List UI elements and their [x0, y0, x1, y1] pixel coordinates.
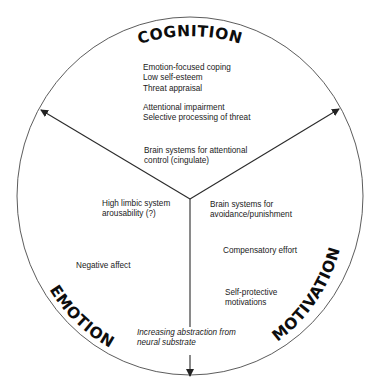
cognition-group-3: Brain systems for attentional control (c…	[144, 146, 247, 167]
axis-note-line: Increasing abstraction from	[137, 328, 236, 338]
motivation-item: Compensatory effort	[223, 246, 297, 256]
axis-note-line: neural substrate	[137, 338, 236, 348]
cognition-group-1: Emotion-focused coping Low self-esteem T…	[143, 63, 231, 94]
motivation-item: motivations	[225, 298, 277, 308]
emotion-group-1: High limbic system arousability (?)	[102, 199, 170, 220]
motivation-item: Self-protective	[225, 288, 277, 298]
emotion-item: High limbic system	[102, 199, 170, 209]
cognition-group-2: Attentional impairment Selective process…	[143, 103, 250, 124]
motivation-group-1: Brain systems for avoidance/punishment	[210, 200, 292, 221]
motivation-title: MOTIVATION	[269, 245, 344, 345]
emotion-group-2: Negative affect	[76, 261, 130, 271]
motivation-group-3: Self-protective motivations	[225, 288, 277, 309]
emotion-item: Negative affect	[76, 261, 130, 271]
motivation-item: avoidance/punishment	[210, 210, 292, 220]
cognition-item: Brain systems for attentional	[144, 146, 247, 156]
emotion-title: EMOTION	[46, 282, 118, 352]
motivation-item: Brain systems for	[210, 200, 292, 210]
cognition-title: COGNITION	[135, 22, 244, 48]
abstraction-axis-note: Increasing abstraction from neural subst…	[137, 328, 236, 349]
cognition-item: Emotion-focused coping	[143, 63, 231, 73]
cognition-item: control (cingulate)	[144, 156, 247, 166]
cognition-item: Attentional impairment	[143, 103, 250, 113]
cognition-item: Selective processing of threat	[143, 113, 250, 123]
cognition-item: Low self-esteem	[143, 73, 231, 83]
emotion-item: arousability (?)	[102, 209, 170, 219]
cognition-item: Threat appraisal	[143, 84, 231, 94]
motivation-group-2: Compensatory effort	[223, 246, 297, 256]
